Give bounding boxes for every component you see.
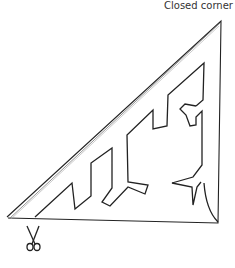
cut-line xyxy=(35,63,218,222)
scissors-icon xyxy=(27,226,40,251)
folded-paper-diagram xyxy=(0,0,235,268)
